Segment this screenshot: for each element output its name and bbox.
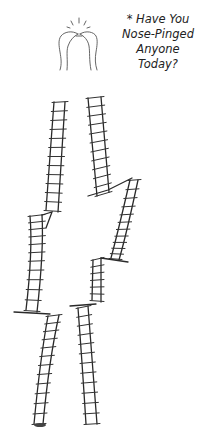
ground-mark [34,423,46,427]
left-body-ladder [24,215,45,313]
ladder-rung [90,301,104,302]
ladder-rung [118,222,132,223]
ladder-rung [110,254,123,255]
left-neck-ladder [44,102,68,213]
waist-line-right [70,304,96,306]
ladder-rung [25,300,41,301]
ladder-rung [46,184,63,185]
ladder-rung [28,261,44,262]
ladder-rung [45,193,62,194]
ladder-illustration [0,0,204,427]
right-leg-ladder [76,306,100,425]
spark-marks [67,18,90,28]
right-neck-ladder-rail-left [88,98,97,196]
heads [59,32,97,70]
left-armpit-stroke [42,212,52,228]
left-leg-ladder-rail-left [34,316,48,424]
center-body-ladder [90,258,104,303]
right-arm-ladder-rail-left [111,180,130,258]
right-arm-ladder [109,180,141,261]
right-neck-ladder-rail-right [101,97,109,192]
ladder-rung [50,129,66,130]
ladder-rung [95,192,112,197]
waist-line-left [14,312,50,314]
left-body-ladder-rail-right [37,215,42,312]
ladders [14,97,141,425]
ladder-rung [51,120,67,121]
left-leg-ladder [32,315,62,425]
right-neck-ladder [86,97,112,197]
left-body-ladder-rail-left [26,216,31,310]
